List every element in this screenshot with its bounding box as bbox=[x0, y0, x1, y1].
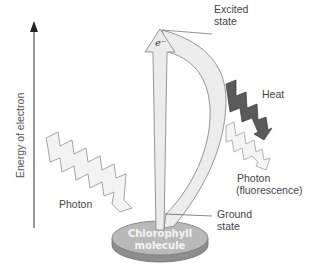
molecule-label-line1: Chlorophyll bbox=[112, 228, 208, 240]
incoming-photon-label: Photon bbox=[59, 198, 92, 210]
fluorescence-label-line2: (fluorescence) bbox=[236, 184, 303, 196]
return-path-arrow-icon bbox=[162, 30, 226, 228]
excitation-arrow-icon bbox=[145, 29, 175, 230]
ground-state-label-line1: Ground bbox=[217, 208, 252, 220]
fluorescence-label-line1: Photon bbox=[237, 172, 270, 184]
excited-state-label-line2: state bbox=[214, 15, 237, 27]
molecule-label-line2: molecule bbox=[112, 240, 208, 252]
electron-label: e⁻ bbox=[155, 37, 166, 48]
energy-axis bbox=[30, 21, 38, 228]
energy-axis-label: Energy of electron bbox=[14, 93, 26, 178]
ground-state-label-line2: state bbox=[217, 220, 240, 232]
heat-label: Heat bbox=[262, 88, 284, 100]
excited-state-label-line1: Excited bbox=[214, 3, 248, 15]
axis-arrowhead-icon bbox=[30, 21, 38, 32]
photoexcitation-diagram: Energy of electron e⁻ Excited state Heat… bbox=[0, 0, 320, 278]
